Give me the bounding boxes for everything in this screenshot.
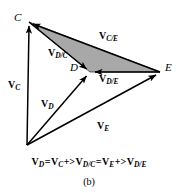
vector-label-vce: VC/E xyxy=(99,31,118,43)
vector-subscript-vde: D/E xyxy=(106,77,118,86)
vector-line-vc xyxy=(27,26,29,145)
equation-subscript-vde: D/E xyxy=(134,160,147,169)
vector-label-vde: VD/E xyxy=(99,74,118,86)
vector-label-vd: VD xyxy=(41,99,54,111)
equation-equals-1: = xyxy=(44,156,51,167)
equation-operator-2: +> xyxy=(114,156,126,167)
equation-term-vd: VD xyxy=(32,156,45,167)
equation-symbol-vde: V xyxy=(127,156,134,167)
vector-equation: VD=VC+>VD/C=VE+>VD/E xyxy=(0,156,178,169)
vector-label-ve: VE xyxy=(97,121,109,133)
vector-subscript-vce: C/E xyxy=(106,34,118,43)
point-label-c: C xyxy=(14,12,21,23)
equation-term-vdc: VD/C xyxy=(76,156,96,167)
equation-symbol-vdc: V xyxy=(76,156,83,167)
vector-label-vdc: VD/C xyxy=(48,48,67,60)
vector-subscript-vd: D xyxy=(48,102,53,111)
equation-symbol-vd: V xyxy=(32,156,39,167)
vector-subscript-ve: E xyxy=(104,124,109,133)
vector-line-vd xyxy=(27,76,87,145)
equation-term-ve: VE xyxy=(102,156,114,167)
figure-caption: (b) xyxy=(0,176,178,187)
vector-subscript-vdc: D/C xyxy=(55,51,67,60)
point-label-d: D xyxy=(70,62,78,73)
vector-diagram-figure: C D E VC VD VE VD/C VD/E VC/E VD=VC+>VD/… xyxy=(0,0,178,193)
equation-operator-1: +> xyxy=(63,156,75,167)
vector-subscript-vc: C xyxy=(15,83,20,92)
equation-term-vc: VC xyxy=(51,156,63,167)
equation-term-vde: VD/E xyxy=(127,156,147,167)
equation-subscript-vdc: D/C xyxy=(83,160,96,169)
point-label-e: E xyxy=(165,62,172,73)
vector-label-vc: VC xyxy=(8,80,20,92)
